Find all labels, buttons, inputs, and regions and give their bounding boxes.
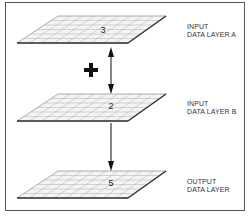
grid-layer-b: 2 [17,94,166,121]
cell-value-output: 5 [108,178,113,188]
layer-b-label-line1: INPUT [187,100,236,108]
grid-layer-a: 3 [17,16,166,43]
layer-a-label: INPUT DATA LAYER A [187,23,236,39]
layer-a-label-line1: INPUT [187,23,236,31]
layer-a-label-line2: DATA LAYER A [187,31,236,39]
grid-layer-output: 5 [17,171,166,198]
layer-b-label-line2: DATA LAYER B [187,108,236,116]
cell-value-b: 2 [108,101,113,111]
layer-b-label: INPUT DATA LAYER B [187,100,236,116]
output-layer-label: OUTPUT DATA LAYER [187,178,230,194]
cell-value-a: 3 [100,25,105,35]
double-arrow-icon [108,47,114,94]
plus-icon [84,63,98,77]
down-arrow-icon [108,123,114,171]
output-label-line2: DATA LAYER [187,186,230,194]
output-label-line1: OUTPUT [187,178,230,186]
